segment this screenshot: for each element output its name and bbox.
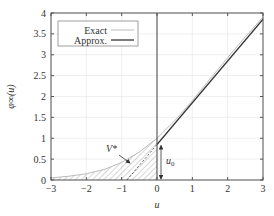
chart: −3−2−1012300.511.522.533.54uφ∞(u) V*u0 E… [0, 0, 274, 216]
u0-subscript: 0 [171, 160, 175, 168]
y-axis-label: φ∞(u) [5, 84, 17, 109]
x-tick-label: −1 [116, 183, 127, 194]
x-tick-label: 1 [190, 183, 195, 194]
y-tick-label: 0.5 [34, 154, 47, 165]
y-tick-label: 2.5 [34, 70, 47, 81]
x-tick-label: −2 [81, 183, 92, 194]
legend-label-approx: Approx. [74, 35, 107, 46]
v-star-label: V* [106, 143, 117, 154]
legend: ExactApprox. [58, 21, 138, 46]
y-tick-label: 3.5 [34, 28, 47, 39]
u0-label: u0 [166, 155, 175, 168]
x-tick-label: 3 [261, 183, 266, 194]
x-axis-label: u [155, 199, 160, 210]
y-tick-label: 2 [41, 91, 46, 102]
y-tick-label: 4 [41, 8, 46, 19]
y-tick-label: 1.5 [34, 112, 47, 123]
y-tick-label: 0 [41, 175, 46, 186]
series-approx [157, 19, 263, 144]
x-tick-label: 2 [225, 183, 230, 194]
y-tick-label: 3 [41, 49, 46, 60]
y-tick-label: 1 [41, 133, 46, 144]
x-tick-label: 0 [155, 183, 160, 194]
x-tick-label: −3 [46, 183, 57, 194]
